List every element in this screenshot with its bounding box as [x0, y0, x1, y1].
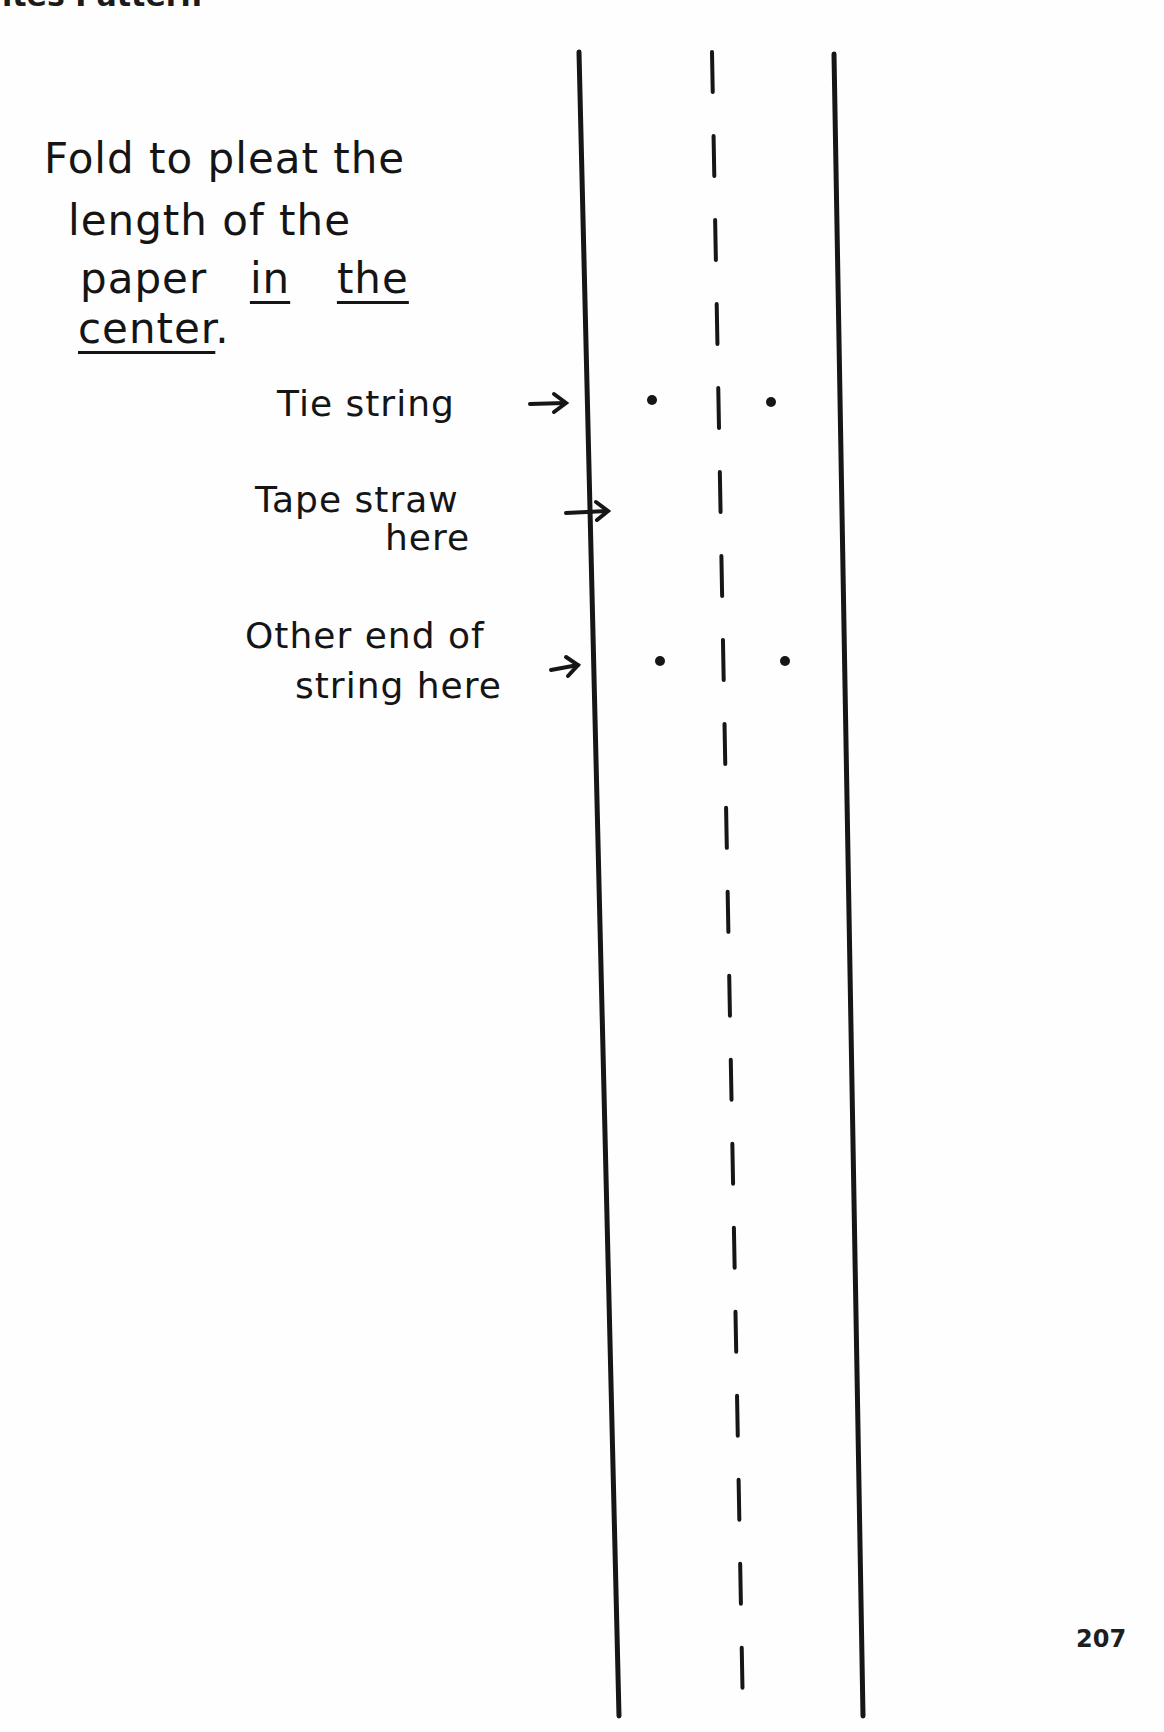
string-hole-dot-4: [780, 656, 790, 666]
pleat-diagram: [0, 0, 1164, 1732]
string-hole-dot-2: [766, 397, 776, 407]
string-hole-dot-3: [655, 656, 665, 666]
arrow-icon-other-end: [551, 657, 578, 676]
right-cut-line: [834, 54, 863, 1716]
left-cut-line: [579, 52, 619, 1716]
center-fold-line-dashed: [712, 52, 743, 1716]
page-number: 207: [1076, 1625, 1126, 1653]
string-hole-dot-1: [647, 395, 657, 405]
arrow-icon-tie-string: [530, 394, 566, 412]
arrow-icon-tape-straw: [566, 502, 608, 520]
document-page: ites Pattern Fold to pleat the length of…: [0, 0, 1164, 1732]
